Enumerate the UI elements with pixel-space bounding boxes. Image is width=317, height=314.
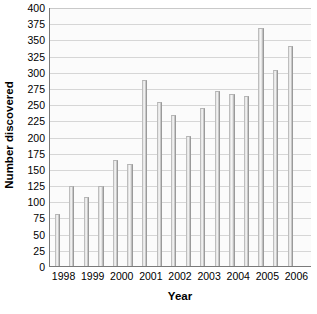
bar-1998-first — [55, 214, 60, 266]
x-axis-tick-2003: 2003 — [197, 270, 220, 282]
y-axis-tick-225: 225 — [27, 115, 45, 127]
y-axis-tick-labels: 4003753503253002752502252001751501251007… — [18, 0, 48, 270]
x-axis-tick-2002: 2002 — [168, 270, 191, 282]
plot-area — [49, 8, 311, 267]
y-axis-tick-350: 350 — [27, 34, 45, 46]
y-axis-tick-175: 175 — [27, 148, 45, 160]
y-axis-tick-25: 25 — [33, 245, 45, 257]
bar-1999-second — [98, 186, 103, 266]
bar-1999-first — [84, 197, 89, 266]
x-axis-tick-labels: 199819992000200120022003200420052006 — [49, 270, 311, 286]
y-axis-tick-375: 375 — [27, 18, 45, 30]
bar-2001-first — [142, 80, 147, 266]
bar-chart: Number discovered 4003753503253002752502… — [0, 0, 317, 314]
bar-2001-second — [157, 102, 162, 266]
y-axis-tick-325: 325 — [27, 51, 45, 63]
bar-2006-first — [288, 46, 293, 266]
bar-series — [50, 8, 311, 266]
y-axis-title: Number discovered — [0, 0, 18, 270]
bar-2002-second — [186, 136, 191, 266]
y-axis-tick-200: 200 — [27, 132, 45, 144]
y-axis-tick-75: 75 — [33, 212, 45, 224]
bar-1998-second — [69, 186, 74, 266]
bar-2005-second — [273, 70, 278, 266]
bar-2004-first — [229, 94, 234, 266]
x-axis-tick-2006: 2006 — [285, 270, 308, 282]
y-axis-tick-50: 50 — [33, 229, 45, 241]
y-axis-tick-400: 400 — [27, 2, 45, 14]
bar-2003-first — [200, 108, 205, 266]
y-axis-tick-125: 125 — [27, 180, 45, 192]
bar-2000-second — [127, 164, 132, 266]
y-axis-tick-150: 150 — [27, 164, 45, 176]
x-axis-tick-2000: 2000 — [110, 270, 133, 282]
bar-2000-first — [113, 160, 118, 266]
bar-2002-first — [171, 115, 176, 267]
y-axis-tick-275: 275 — [27, 83, 45, 95]
y-axis-tick-250: 250 — [27, 99, 45, 111]
y-axis-tick-300: 300 — [27, 67, 45, 79]
y-axis-tick-0: 0 — [39, 261, 45, 273]
x-axis-tick-1998: 1998 — [52, 270, 75, 282]
x-axis-title: Year — [49, 290, 311, 302]
x-axis-tick-1999: 1999 — [81, 270, 104, 282]
x-axis-tick-2001: 2001 — [139, 270, 162, 282]
x-axis-tick-2005: 2005 — [256, 270, 279, 282]
bar-2003-second — [215, 91, 220, 266]
y-axis-tick-100: 100 — [27, 196, 45, 208]
x-axis-tick-2004: 2004 — [227, 270, 250, 282]
bar-2005-first — [258, 28, 263, 266]
bar-2004-second — [244, 96, 249, 266]
y-axis-title-text: Number discovered — [3, 81, 15, 188]
